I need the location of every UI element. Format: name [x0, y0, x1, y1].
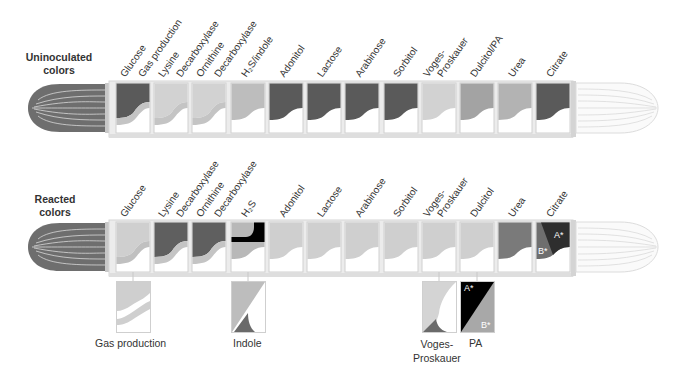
- uninoculated-title: Uninoculated colors: [20, 51, 98, 77]
- label-adonitol-2: Adonitol: [277, 183, 307, 219]
- label-dulcitol-2: Dulcitol: [468, 186, 496, 219]
- detail-gas-production: [116, 281, 152, 334]
- detail-voges-label-line1: Voges-: [413, 337, 461, 351]
- compartment-h2s-indole: [231, 83, 265, 133]
- label-citrate: Citrate: [544, 49, 570, 79]
- detail-pa-label: PA: [469, 337, 482, 349]
- reacted-title-line1: Reacted: [20, 193, 90, 206]
- detail-voges-proskauer: [422, 281, 458, 334]
- compartment-voges-proskauer: [422, 83, 456, 133]
- detail-voges-label-line2: Proskauer: [413, 351, 461, 365]
- detail-voges-proskauer-label: Voges- Proskauer: [413, 337, 461, 365]
- reacted-compartment-adonitol: [269, 222, 303, 272]
- reacted-compartment-urea: [498, 222, 532, 272]
- uninoculated-tube: [0, 78, 680, 144]
- compartment-lysine: [154, 83, 188, 133]
- label-arabinose: Arabinose: [353, 36, 388, 79]
- reacted-compartment-ornithine: [192, 222, 226, 272]
- uninoculated-title-line1: Uninoculated: [20, 51, 98, 64]
- reacted-compartment-arabinose: [345, 222, 379, 272]
- reacted-compartment-dulcitol: [460, 222, 494, 272]
- compartment-adonitol: [269, 83, 303, 133]
- right-cap-icon-2: [571, 220, 658, 276]
- pa-mark-a: A*: [464, 283, 474, 293]
- compartment-ornithine: [192, 83, 226, 133]
- compartment-arabinose: [345, 83, 379, 133]
- label-h2s: H₂S: [239, 198, 258, 219]
- label-urea: Urea: [506, 55, 527, 79]
- label-arabinose-2: Arabinose: [353, 176, 388, 219]
- reacted-compartment-lysine: [154, 222, 188, 272]
- label-dulcitol-pa: Dulcitol/PA: [468, 33, 505, 79]
- compartment-sorbitol: [384, 83, 418, 133]
- label-sorbitol-2: Sorbitol: [391, 185, 419, 219]
- detail-indole-label: Indole: [233, 337, 262, 349]
- detail-gas-production-label: Gas production: [95, 337, 166, 349]
- reacted-compartment-glucose: [116, 222, 150, 272]
- citrate-mark-a: A*: [554, 230, 564, 240]
- reacted-compartment-sorbitol: [384, 222, 418, 272]
- compartment-dulcitol-pa: [460, 83, 494, 133]
- compartment-citrate: [536, 83, 570, 133]
- right-cap-icon: [571, 81, 658, 137]
- left-cap-icon-2: [28, 222, 110, 272]
- uninoculated-title-line2: colors: [20, 64, 98, 77]
- detail-indole: [231, 281, 267, 334]
- label-urea-2: Urea: [506, 195, 527, 219]
- reacted-compartment-voges-proskauer: [422, 222, 456, 272]
- compartment-glucose: [116, 83, 150, 133]
- label-adonitol: Adonitol: [277, 43, 307, 79]
- label-citrate-2: Citrate: [544, 189, 570, 219]
- citrate-mark-b: B*: [538, 246, 548, 256]
- label-sorbitol: Sorbitol: [391, 45, 419, 79]
- reacted-compartment-lactose: [307, 222, 341, 272]
- label-lactose-2: Lactose: [315, 184, 344, 219]
- reacted-compartment-h2s: [231, 222, 265, 272]
- connector-lines: [0, 272, 680, 286]
- label-glucose-2: Glucose: [118, 183, 148, 219]
- compartment-lactose: [307, 83, 341, 133]
- label-lactose: Lactose: [315, 44, 344, 79]
- compartment-urea: [498, 83, 532, 133]
- left-cap-icon: [28, 83, 110, 133]
- pa-mark-b: B*: [481, 320, 491, 330]
- reacted-title: Reacted colors: [20, 193, 90, 219]
